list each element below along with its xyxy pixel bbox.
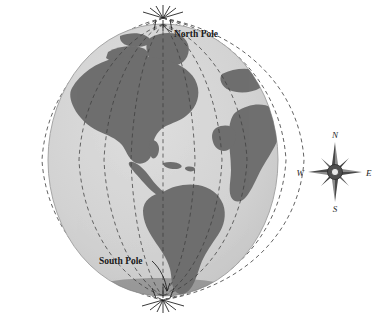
compass-east-label: E [365, 168, 372, 178]
compass-hub-inner [331, 168, 338, 175]
compass-rose: N S E W [297, 130, 373, 214]
compass-west-label: W [297, 168, 306, 178]
compass-north-label: N [331, 130, 339, 140]
compass-south-label: S [333, 204, 338, 214]
globe-diagram: North Pole South Pole [0, 0, 378, 320]
landmass-europe [220, 69, 264, 93]
diagram-canvas: North Pole South Pole [0, 0, 378, 320]
north-pole-label: North Pole [174, 29, 218, 39]
south-pole-label: South Pole [99, 256, 143, 266]
